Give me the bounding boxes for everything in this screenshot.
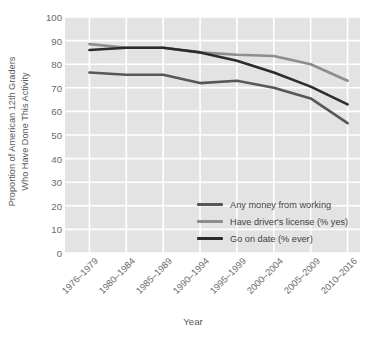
x-tick-label: 1990–1994 bbox=[171, 256, 211, 296]
chart-figure: Proportion of American 12th Graders Who … bbox=[0, 0, 386, 339]
x-tick-label: 1976–1979 bbox=[61, 256, 101, 296]
x-tick-label: 1995–1999 bbox=[208, 256, 248, 296]
x-tick-label: 2000–2004 bbox=[245, 256, 285, 296]
y-tick-label: 100 bbox=[38, 12, 62, 23]
y-tick-label: 0 bbox=[38, 248, 62, 259]
x-tick-label: 1985–1989 bbox=[134, 256, 174, 296]
y-tick-label: 50 bbox=[38, 130, 62, 141]
y-tick-label: 20 bbox=[38, 200, 62, 211]
y-tick-label: 10 bbox=[38, 224, 62, 235]
y-axis-title-line-2: Who Have Done This Activity bbox=[19, 56, 32, 206]
chart-legend: Any money from workingHave driver's lice… bbox=[197, 196, 377, 247]
legend-line-swatch bbox=[197, 220, 223, 223]
x-tick-label: 2010–2016 bbox=[319, 256, 359, 296]
y-axis-title-line-1: Proportion of American 12th Graders bbox=[7, 56, 20, 206]
legend-item[interactable]: Any money from working bbox=[197, 196, 377, 213]
legend-item-label: Have driver's license (% yes) bbox=[230, 217, 348, 227]
legend-line-swatch bbox=[197, 203, 223, 206]
legend-item[interactable]: Have driver's license (% yes) bbox=[197, 213, 377, 230]
y-axis-title: Proportion of American 12th Graders Who … bbox=[0, 0, 38, 262]
y-tick-label: 40 bbox=[38, 153, 62, 164]
y-axis-ticks: 0102030405060708090100 bbox=[36, 0, 62, 339]
legend-item[interactable]: Go on date (% ever) bbox=[197, 230, 377, 247]
series-line bbox=[89, 72, 347, 123]
legend-item-label: Any money from working bbox=[230, 200, 331, 210]
x-axis-ticks: 1976–19791980–19841985–19891990–19941995… bbox=[65, 253, 360, 313]
legend-item-label: Go on date (% ever) bbox=[230, 234, 313, 244]
legend-line-swatch bbox=[197, 237, 223, 240]
y-tick-label: 80 bbox=[38, 59, 62, 70]
x-tick-label: 2005–2009 bbox=[282, 256, 322, 296]
y-tick-label: 70 bbox=[38, 82, 62, 93]
y-tick-label: 30 bbox=[38, 177, 62, 188]
x-axis-title: Year bbox=[0, 316, 386, 327]
y-tick-label: 60 bbox=[38, 106, 62, 117]
x-tick-label: 1980–1984 bbox=[97, 256, 137, 296]
y-tick-label: 90 bbox=[38, 35, 62, 46]
